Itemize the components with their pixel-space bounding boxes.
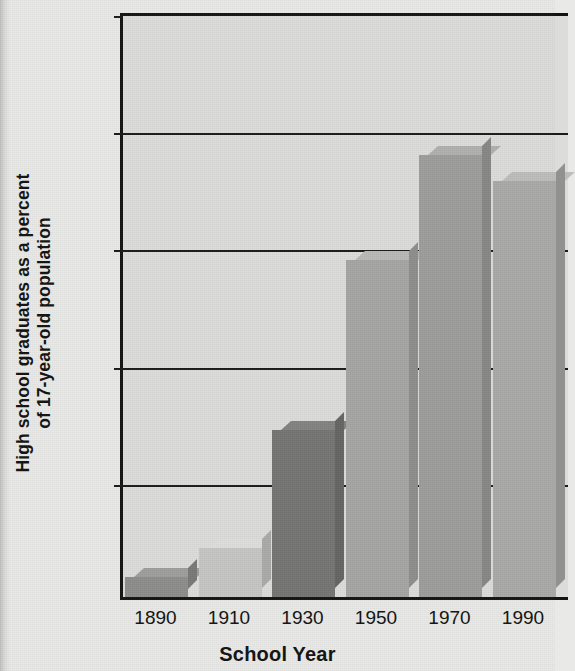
bar-side-face-1910: [262, 530, 271, 588]
x-tick-label-1890: 1890: [134, 607, 176, 629]
x-axis-title: School Year: [0, 643, 555, 666]
bar-1970: [419, 155, 482, 597]
bar-1930: [272, 430, 335, 597]
bar-side-face-1990: [556, 163, 565, 588]
bar-front-face-1910: [199, 548, 262, 597]
y-axis-title-line-1: High school graduates as a percent: [13, 173, 34, 472]
y-tick-mark-40: [114, 368, 123, 370]
x-tick-label-1970: 1970: [428, 607, 470, 629]
x-tick-label-1930: 1930: [281, 607, 323, 629]
y-axis-title: High school graduates as a percent of 17…: [4, 43, 64, 603]
y-tick-mark-100: [114, 16, 123, 18]
plot-area: [120, 13, 568, 600]
bar-side-face-1950: [409, 242, 418, 588]
y-axis-title-line-2: of 17-year-old population: [34, 217, 55, 429]
bar-side-face-1890: [188, 559, 197, 589]
x-tick-label-1990: 1990: [502, 607, 544, 629]
bar-front-face-1970: [419, 155, 482, 597]
bar-side-face-1970: [482, 137, 491, 588]
y-tick-mark-80: [114, 133, 123, 135]
y-tick-mark-20: [114, 485, 123, 487]
gridline-80: [123, 133, 568, 135]
y-tick-mark-60: [114, 250, 123, 252]
bar-1910: [199, 548, 262, 597]
x-tick-label-1950: 1950: [355, 607, 397, 629]
bar-side-face-1930: [335, 412, 344, 588]
bar-front-face-1990: [493, 181, 556, 597]
bar-front-face-1930: [272, 430, 335, 597]
bar-1950: [346, 260, 409, 597]
page-edge-shadow: [0, 0, 10, 671]
bar-front-face-1950: [346, 260, 409, 597]
x-tick-label-1910: 1910: [208, 607, 250, 629]
bar-1890: [125, 577, 188, 598]
bar-1990: [493, 181, 556, 597]
bar-front-face-1890: [125, 577, 188, 598]
